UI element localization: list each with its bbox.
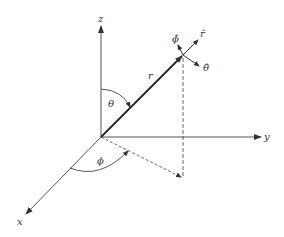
x-axis-label: x bbox=[17, 216, 23, 227]
r-hat-label: r̂ bbox=[200, 28, 206, 39]
theta-label: θ bbox=[108, 98, 114, 109]
theta-arc bbox=[101, 89, 130, 107]
projection-line bbox=[101, 137, 181, 177]
phi-hat-label: ϕ̂ bbox=[172, 33, 179, 44]
r-vector bbox=[101, 56, 182, 137]
phi-hat-vector bbox=[178, 45, 183, 55]
r-label: r bbox=[148, 70, 154, 81]
y-axis-label: y bbox=[263, 131, 270, 142]
x-axis bbox=[26, 137, 101, 214]
theta-hat-vector bbox=[183, 55, 199, 66]
z-axis-label: z bbox=[97, 13, 104, 24]
phi-label: ϕ bbox=[97, 155, 104, 166]
r-hat-vector bbox=[183, 40, 198, 55]
spherical-coordinates-diagram: z y x r θ ϕ r̂ θ̂ ϕ̂ bbox=[0, 0, 284, 237]
theta-hat-label: θ̂ bbox=[203, 62, 209, 73]
